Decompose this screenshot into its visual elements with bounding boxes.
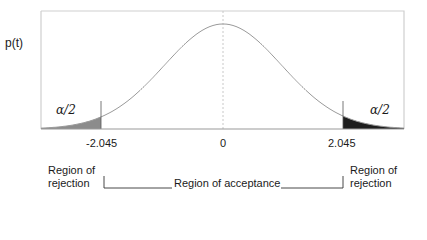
left-region-line2: rejection [48,177,90,190]
left-region-line1: Region of [48,164,95,177]
tick-left: -2.045 [86,137,117,150]
right-region-line2: rejection [350,177,392,190]
tick-right: 2.045 [328,137,356,150]
right-region-line1: Region of [350,164,397,177]
tick-center: 0 [220,137,226,150]
acceptance-region-label: Region of acceptance [174,177,280,190]
right-alpha-label: α/2 [370,104,390,117]
right-rejection-area [343,116,404,129]
y-axis-label: p(t) [5,37,23,50]
left-alpha-label: α/2 [56,104,76,117]
